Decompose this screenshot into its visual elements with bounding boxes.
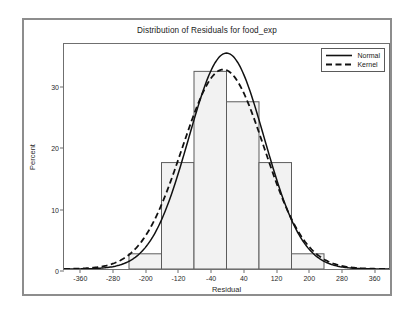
x-tick-label: 200 bbox=[303, 275, 315, 282]
legend-line-dashed-icon bbox=[325, 60, 353, 69]
x-tick-mark bbox=[145, 269, 146, 273]
legend-item-kernel: Kernel bbox=[325, 60, 380, 69]
chart-legend: Normal Kernel bbox=[321, 48, 385, 72]
y-tick-mark bbox=[60, 86, 64, 87]
x-tick-mark bbox=[178, 269, 179, 273]
y-tick-mark bbox=[60, 271, 64, 272]
x-tick-label: 120 bbox=[271, 275, 283, 282]
x-tick-label: -120 bbox=[171, 275, 185, 282]
figure-panel: Distribution of Residuals for food_exp P… bbox=[22, 18, 392, 296]
density-curves bbox=[64, 44, 389, 269]
x-tick-mark bbox=[113, 269, 114, 273]
y-tick-mark bbox=[60, 209, 64, 210]
x-tick-mark bbox=[309, 269, 310, 273]
x-tick-label: 280 bbox=[336, 275, 348, 282]
y-tick-mark bbox=[60, 148, 64, 149]
x-tick-label: -200 bbox=[139, 275, 153, 282]
x-tick-label: 40 bbox=[240, 275, 248, 282]
density-curve-normal bbox=[64, 53, 389, 269]
x-tick-label: -280 bbox=[106, 275, 120, 282]
legend-line-solid-icon bbox=[325, 51, 353, 60]
x-tick-mark bbox=[211, 269, 212, 273]
y-axis-label: Percent bbox=[28, 144, 37, 170]
legend-label-kernel: Kernel bbox=[357, 61, 377, 68]
x-tick-mark bbox=[80, 269, 81, 273]
legend-label-normal: Normal bbox=[357, 52, 380, 59]
x-tick-mark bbox=[276, 269, 277, 273]
x-axis-label: Residual bbox=[64, 285, 389, 294]
x-tick-mark bbox=[243, 269, 244, 273]
plot-area bbox=[64, 44, 389, 269]
x-tick-mark bbox=[341, 269, 342, 273]
x-tick-mark bbox=[374, 269, 375, 273]
density-curve-kernel bbox=[64, 70, 389, 269]
x-tick-label: 360 bbox=[369, 275, 381, 282]
plot-frame: 0102030 -360-280-200-120-404012020028036… bbox=[63, 43, 390, 270]
x-tick-label: -360 bbox=[73, 275, 87, 282]
x-tick-label: -40 bbox=[206, 275, 216, 282]
chart-title: Distribution of Residuals for food_exp bbox=[24, 26, 390, 35]
legend-item-normal: Normal bbox=[325, 51, 380, 60]
